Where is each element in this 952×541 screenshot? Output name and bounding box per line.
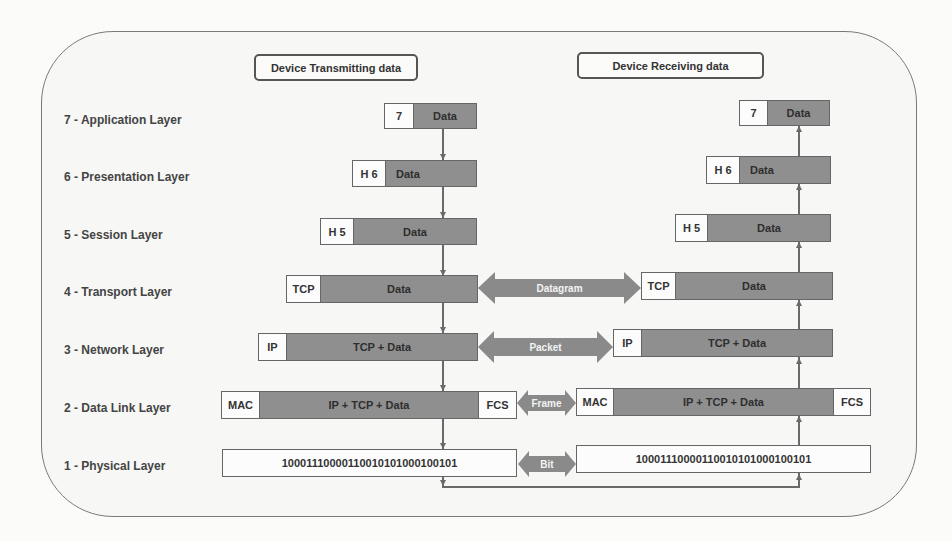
arrow-up-icon bbox=[796, 358, 802, 364]
layer-label-network: 3 - Network Layer bbox=[64, 343, 164, 357]
rx-application-pdu: 7 Data bbox=[739, 100, 830, 126]
rx-data-link-pdu: MAC IP + TCP + Data FCS bbox=[576, 388, 871, 416]
rx-session-pdu: H 5 Data bbox=[675, 214, 831, 242]
tx-data-link-payload: IP + TCP + Data bbox=[260, 392, 478, 418]
rx-data-link-payload: IP + TCP + Data bbox=[614, 389, 833, 415]
rx-network-header: IP bbox=[614, 330, 642, 356]
layer-label-physical: 1 - Physical Layer bbox=[64, 459, 165, 473]
rx-bitstream: 10001110000110010101000100101 bbox=[577, 446, 870, 472]
tx-data-link-header: MAC bbox=[222, 392, 260, 418]
tx-session-header: H 5 bbox=[321, 219, 354, 244]
tx-session-payload: Data bbox=[354, 219, 476, 244]
rx-presentation-header: H 6 bbox=[707, 157, 740, 183]
tx-application-payload: Data bbox=[414, 104, 476, 128]
layer-label-transport: 4 - Transport Layer bbox=[64, 285, 172, 299]
rx-network-payload: TCP + Data bbox=[642, 330, 832, 356]
packet-exchange-arrow: Packet bbox=[478, 331, 613, 363]
layer-label-presentation: 6 - Presentation Layer bbox=[64, 170, 189, 184]
tx-transport-payload: Data bbox=[321, 276, 477, 302]
layer-label-application: 7 - Application Layer bbox=[64, 113, 182, 127]
arrow-up-icon bbox=[796, 474, 802, 480]
tx-session-pdu: H 5 Data bbox=[320, 218, 477, 245]
datagram-label: Datagram bbox=[536, 283, 582, 294]
arrow-up-icon bbox=[796, 126, 802, 132]
layer-label-data-link: 2 - Data Link Layer bbox=[64, 401, 171, 415]
tx-physical-bits: 10001110000110010101000100101 bbox=[222, 449, 517, 477]
rx-session-header: H 5 bbox=[676, 215, 708, 241]
rx-presentation-payload: Data bbox=[740, 157, 830, 183]
rx-data-link-trailer: FCS bbox=[833, 389, 870, 415]
tx-data-link-pdu: MAC IP + TCP + Data FCS bbox=[221, 391, 517, 419]
transmitting-device-title: Device Transmitting data bbox=[254, 54, 418, 81]
rx-physical-bits: 10001110000110010101000100101 bbox=[576, 445, 871, 473]
frame-exchange-arrow: Frame bbox=[517, 390, 576, 416]
datagram-exchange-arrow: Datagram bbox=[478, 272, 641, 304]
rx-network-pdu: IP TCP + Data bbox=[613, 329, 833, 357]
tx-application-pdu: 7 Data bbox=[384, 103, 477, 129]
receiving-device-title: Device Receiving data bbox=[577, 52, 764, 79]
tx-bitstream: 10001110000110010101000100101 bbox=[223, 450, 516, 476]
arrow-up-icon bbox=[796, 416, 802, 422]
rx-presentation-pdu: H 6 Data bbox=[706, 156, 831, 184]
bit-label: Bit bbox=[540, 459, 553, 470]
tx-presentation-payload: Data bbox=[386, 161, 476, 186]
arrow-up-icon bbox=[796, 242, 802, 248]
tx-presentation-header: H 6 bbox=[353, 161, 386, 186]
rx-transport-pdu: TCP Data bbox=[641, 272, 833, 300]
tx-network-pdu: IP TCP + Data bbox=[258, 333, 478, 361]
rx-transport-header: TCP bbox=[642, 273, 676, 299]
layer-label-session: 5 - Session Layer bbox=[64, 228, 163, 242]
bit-exchange-arrow: Bit bbox=[518, 451, 576, 477]
tx-network-header: IP bbox=[259, 334, 287, 360]
packet-label: Packet bbox=[529, 342, 561, 353]
tx-application-header: 7 bbox=[385, 104, 414, 128]
arrow-up-icon bbox=[796, 300, 802, 306]
tx-network-payload: TCP + Data bbox=[287, 334, 477, 360]
rx-session-payload: Data bbox=[708, 215, 830, 241]
rx-data-link-header: MAC bbox=[577, 389, 614, 415]
tx-transport-header: TCP bbox=[287, 276, 321, 302]
rx-transport-payload: Data bbox=[676, 273, 832, 299]
rx-application-payload: Data bbox=[768, 101, 829, 125]
tx-presentation-pdu: H 6 Data bbox=[352, 160, 477, 187]
frame-label: Frame bbox=[531, 398, 561, 409]
medium-connector-line bbox=[442, 486, 800, 488]
tx-data-link-trailer: FCS bbox=[478, 392, 516, 418]
tx-transport-pdu: TCP Data bbox=[286, 275, 478, 303]
arrow-up-icon bbox=[796, 184, 802, 190]
rx-application-header: 7 bbox=[740, 101, 768, 125]
